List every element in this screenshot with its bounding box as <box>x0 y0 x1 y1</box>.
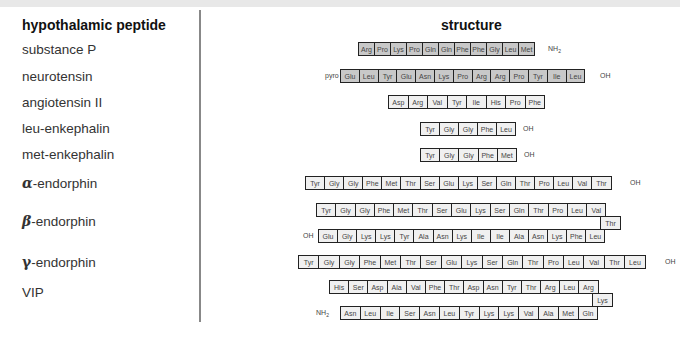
amino-acid-box: Ser <box>400 307 419 319</box>
name-alpha-endorphin: α-endorphin <box>22 175 97 191</box>
amino-acid-box: Lys <box>462 256 481 268</box>
vip-turn: Lys <box>592 293 613 307</box>
amino-acid-box: Thr <box>605 256 624 268</box>
amino-acid-box: Gln <box>579 307 598 319</box>
amino-acid-box: Phe <box>526 96 545 108</box>
chain-beta-endorphin-row1: TyrGlyGlyPheMetThrSerGluLysSerGlnThrProL… <box>316 203 606 217</box>
amino-acid-box: Gly <box>319 256 338 268</box>
amino-acid-box: Leu <box>503 43 518 55</box>
amino-acid-box: Pro <box>535 177 553 189</box>
amino-acid-box: Gly <box>487 43 502 55</box>
amino-acid-box: Val <box>519 307 538 319</box>
amino-acid-box: Asn <box>434 230 452 242</box>
amino-acid-box: Phe <box>478 123 496 135</box>
amino-acid-box: Glu <box>341 70 359 82</box>
amino-acid-box: Leu <box>440 307 459 319</box>
amino-acid-box: Lys <box>453 230 471 242</box>
amino-acid-box: Arg <box>541 281 559 293</box>
amino-acid-box: Phe <box>360 256 379 268</box>
amino-acid-box: Asp <box>464 281 482 293</box>
amino-acid-box: Pro <box>506 96 525 108</box>
amino-acid-box: Thr <box>522 281 540 293</box>
name-beta-endorphin: β-endorphin <box>22 213 96 229</box>
c-term-met-enkephalin: OH <box>524 151 535 158</box>
amino-acid-box: Leu <box>625 256 644 268</box>
gamma-symbol: γ <box>22 254 31 270</box>
amino-acid-box: Glu <box>440 177 458 189</box>
amino-acid-box: Thr <box>523 256 542 268</box>
amino-acid-box: Leu <box>568 204 586 216</box>
amino-acid-box: Ile <box>472 230 490 242</box>
amino-acid-box: Pro <box>544 256 563 268</box>
amino-acid-box: Asp <box>368 281 386 293</box>
amino-acid-box: Gln <box>497 177 515 189</box>
chain-beta-endorphin-row3: GluGlyLysLysTyrAlaAsnLysIleIleAlaAsnLysP… <box>318 229 605 243</box>
amino-acid-box: Arg <box>579 281 597 293</box>
amino-acid-box: Ser <box>478 177 496 189</box>
amino-acid-box: Ala <box>510 230 528 242</box>
name-vip: VIP <box>22 285 44 300</box>
chain-alpha-endorphin: TyrGlyGlyPheMetThrSerGluLysSerGlnThrProL… <box>305 176 612 190</box>
amino-acid-box: Asn <box>484 281 502 293</box>
amino-acid-box: Pro <box>375 43 390 55</box>
amino-acid-box: Thr <box>445 281 463 293</box>
amino-acid-box: Tyr <box>460 307 479 319</box>
amino-acid-box: Phe <box>426 281 444 293</box>
c-term-beta-endorphin: OH <box>303 232 314 239</box>
amino-acid-box: Leu <box>554 177 572 189</box>
amino-acid-box: Tyr <box>379 70 397 82</box>
chain-met-enkephalin: TyrGlyGlyPheMet <box>420 148 517 162</box>
amino-acid-box: Tyr <box>503 281 521 293</box>
amino-acid-box: Asn <box>529 230 547 242</box>
c-term-vip: NH2 <box>316 309 329 318</box>
amino-acid-box: Lys <box>499 307 518 319</box>
amino-acid-box: Gly <box>459 123 477 135</box>
amino-acid-box: His <box>330 281 348 293</box>
amino-acid-box: Ser <box>433 204 451 216</box>
c-term-substance-p: NH2 <box>548 45 561 54</box>
amino-acid-box: Thr <box>529 204 547 216</box>
c-term-gamma-endorphin: OH <box>665 258 676 265</box>
amino-acid-box: Phe <box>479 149 497 161</box>
amino-acid-box: Asn <box>420 307 439 319</box>
amino-acid-box: Thr <box>516 177 534 189</box>
amino-acid-box: Val <box>587 204 605 216</box>
amino-acid-box: Thr <box>401 177 419 189</box>
amino-acid-box: Gly <box>336 204 354 216</box>
amino-acid-box: Val <box>584 256 603 268</box>
amino-acid-box: Ile <box>548 70 566 82</box>
amino-acid-box: Phe <box>375 204 393 216</box>
amino-acid-box: Ala <box>414 230 432 242</box>
amino-acid-box: Glu <box>397 70 415 82</box>
chain-vip-row3: AsnLeuIleSerAsnLeuTyrLysLysValAlaMetGln <box>340 306 598 320</box>
amino-acid-box: Thr <box>401 256 420 268</box>
amino-acid-box: Met <box>559 307 578 319</box>
amino-acid-box: Arg <box>473 70 491 82</box>
name-met-enkephalin: met-enkephalin <box>22 147 114 162</box>
amino-acid-box: Thr <box>592 177 610 189</box>
amino-acid-box: Asp <box>389 96 408 108</box>
amino-acid-box: Met <box>381 256 400 268</box>
top-strip <box>0 0 680 7</box>
amino-acid-box: Met <box>519 43 534 55</box>
chain-vip-row1: HisSerAspAlaValPheThrAspAsnTyrThrArgLeuA… <box>329 280 599 294</box>
amino-acid-box: Gln <box>439 43 454 55</box>
chain-leu-enkephalin: TyrGlyGlyPheLeu <box>420 122 516 136</box>
amino-acid-box: Phe <box>363 177 381 189</box>
name-neurotensin: neurotensin <box>22 69 93 84</box>
amino-acid-box: Phe <box>455 43 470 55</box>
amino-acid-box: Ser <box>483 256 502 268</box>
amino-acid-box: Glu <box>319 230 337 242</box>
amino-acid-box: Lys <box>376 230 394 242</box>
name-gamma-endorphin: γ-endorphin <box>22 254 96 270</box>
amino-acid-box: Phe <box>567 230 585 242</box>
amino-acid-box: Lys <box>391 43 406 55</box>
column-divider <box>199 10 201 322</box>
name-leu-enkephalin: leu-enkephalin <box>22 121 110 136</box>
amino-acid-box: Leu <box>586 230 604 242</box>
chain-substance-p: ArgProLysProGlnGlnPhePheGlyLeuMet <box>358 42 535 56</box>
amino-acid-box: Ser <box>491 204 509 216</box>
amino-acid-box: Tyr <box>421 123 439 135</box>
amino-acid-box: Gln <box>510 204 528 216</box>
amino-acid-box: Lys <box>548 230 566 242</box>
